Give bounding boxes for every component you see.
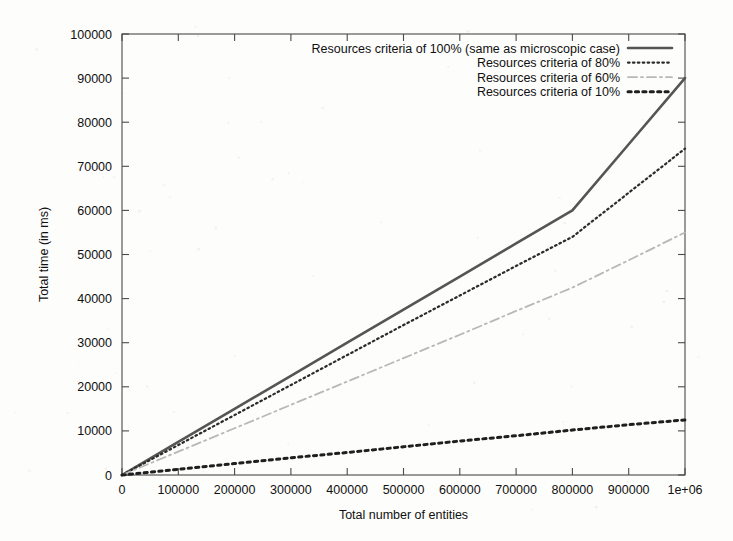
- scan-noise: [203, 471, 204, 473]
- x-axis-tick-label: 0: [119, 483, 126, 497]
- x-axis-title: Total number of entities: [339, 508, 468, 522]
- scan-noise: [479, 150, 482, 151]
- scan-noise: [698, 357, 700, 358]
- scan-noise: [555, 270, 557, 272]
- scan-noise: [428, 424, 429, 426]
- scan-noise: [433, 494, 436, 495]
- x-axis-tick-label: 600000: [439, 483, 481, 497]
- scan-noise: [163, 185, 165, 187]
- x-axis-tick-label: 800000: [552, 483, 594, 497]
- scan-noise: [660, 419, 662, 421]
- y-axis-tick-label: 50000: [77, 248, 112, 262]
- scan-noise: [564, 222, 567, 224]
- x-axis-tick-label: 900000: [608, 483, 650, 497]
- scan-noise: [228, 122, 230, 124]
- scan-noise: [197, 248, 200, 251]
- scan-noise: [630, 326, 633, 328]
- scan-noise: [447, 66, 449, 68]
- scan-noise: [150, 251, 152, 252]
- y-axis-tick-label: 10000: [77, 424, 112, 438]
- x-axis-tick-label: 1e+06: [667, 483, 702, 497]
- scan-noise: [66, 412, 69, 414]
- x-axis-tick-label: 500000: [383, 483, 425, 497]
- scan-noise: [302, 182, 303, 183]
- series-line-3: [122, 420, 685, 475]
- series-line-2: [122, 232, 685, 475]
- scan-noise: [186, 449, 189, 451]
- scan-noise: [563, 421, 564, 423]
- scan-noise: [113, 177, 115, 178]
- scan-noise: [322, 107, 324, 109]
- y-axis-tick-label: 100000: [70, 28, 112, 42]
- scan-noise: [15, 412, 17, 413]
- y-axis-title: Total time (in ms): [37, 207, 51, 302]
- plot-frame: [122, 34, 685, 475]
- scan-noise: [473, 382, 475, 384]
- series-line-0: [122, 78, 685, 475]
- scan-noise: [663, 301, 665, 303]
- y-axis-tick-label: 70000: [77, 160, 112, 174]
- y-axis-tick-label: 0: [105, 469, 112, 483]
- scan-noise: [638, 181, 640, 182]
- y-axis-tick-label: 90000: [77, 72, 112, 86]
- scan-noise: [237, 157, 240, 159]
- y-axis-tick-label: 40000: [77, 292, 112, 306]
- y-axis-tick-label: 60000: [77, 204, 112, 218]
- scan-noise: [28, 469, 30, 471]
- legend-label-0: Resources criteria of 100% (same as micr…: [312, 42, 620, 56]
- scan-noise: [146, 386, 148, 388]
- scan-noise: [228, 77, 230, 79]
- legend-label-1: Resources criteria of 80%: [477, 56, 620, 70]
- x-axis-tick-label: 400000: [326, 483, 368, 497]
- scan-noise: [665, 290, 668, 292]
- legend-label-2: Resources criteria of 60%: [477, 71, 620, 85]
- scan-noise: [663, 453, 664, 454]
- y-axis-tick-label: 20000: [77, 380, 112, 394]
- scan-noise: [548, 318, 550, 320]
- scan-noise: [571, 386, 572, 388]
- scan-noise: [563, 183, 564, 184]
- scan-noise: [195, 26, 197, 28]
- line-chart: 0100002000030000400005000060000700008000…: [0, 0, 733, 541]
- scan-noise: [197, 35, 199, 38]
- scan-noise: [288, 172, 289, 174]
- scan-noise: [288, 443, 289, 445]
- scan-noise: [215, 227, 218, 229]
- scan-noise: [595, 506, 598, 508]
- scan-noise: [312, 275, 315, 276]
- chart-figure: 0100002000030000400005000060000700008000…: [0, 0, 733, 541]
- scan-noise: [234, 356, 236, 358]
- scan-noise: [169, 196, 171, 197]
- scan-noise: [466, 30, 469, 32]
- scan-noise: [558, 197, 561, 199]
- scan-noise: [523, 333, 524, 335]
- x-axis-tick-label: 300000: [270, 483, 312, 497]
- y-axis-tick-label: 80000: [77, 116, 112, 130]
- scan-noise: [477, 237, 478, 240]
- scan-noise: [116, 373, 117, 375]
- scan-noise: [107, 329, 109, 330]
- scan-noise: [138, 210, 141, 212]
- scan-noise: [103, 176, 104, 178]
- y-axis-tick-label: 30000: [77, 336, 112, 350]
- scan-noise: [641, 119, 644, 120]
- scan-noise: [381, 222, 382, 223]
- legend-label-3: Resources criteria of 10%: [477, 85, 620, 99]
- scan-noise: [78, 365, 79, 366]
- x-axis-tick-label: 700000: [495, 483, 537, 497]
- scan-noise: [173, 412, 176, 413]
- scan-noise: [260, 121, 262, 122]
- x-axis-tick-label: 100000: [157, 483, 199, 497]
- scan-noise: [531, 509, 532, 511]
- scan-noise: [35, 49, 38, 51]
- scan-noise: [272, 178, 274, 180]
- x-axis-tick-label: 200000: [214, 483, 256, 497]
